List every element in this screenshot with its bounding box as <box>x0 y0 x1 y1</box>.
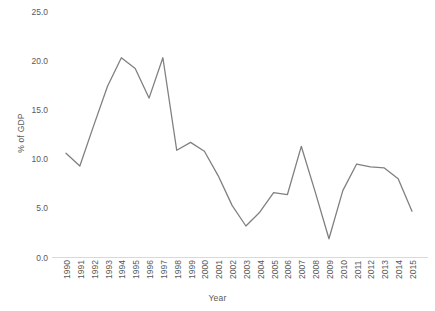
x-tick-label: 2004 <box>256 245 266 279</box>
x-tick-label: 1991 <box>76 245 86 279</box>
x-tick-label: 2010 <box>339 245 349 279</box>
x-tick-label: 2007 <box>297 245 307 279</box>
x-tick-label: 1993 <box>104 245 114 279</box>
x-tick-label: 1996 <box>145 245 155 279</box>
x-tick-label: 1992 <box>90 245 100 279</box>
data-series-line <box>66 58 412 239</box>
x-tick-label: 2008 <box>311 245 321 279</box>
x-tick-label: 1999 <box>187 245 197 279</box>
x-tick-label: 2005 <box>270 245 280 279</box>
line-chart: % of GDP 0.05.010.015.020.025.0 19901991… <box>0 0 435 311</box>
x-tick-label: 2002 <box>228 245 238 279</box>
x-axis-tick-labels: 1990199119921993199419951996199719981999… <box>0 258 435 298</box>
x-tick-label: 2012 <box>366 245 376 279</box>
x-tick-label: 1997 <box>159 245 169 279</box>
x-tick-label: 1990 <box>62 245 72 279</box>
x-axis-title: Year <box>0 293 435 303</box>
x-tick-label: 2001 <box>214 245 224 279</box>
x-tick-label: 1998 <box>173 245 183 279</box>
x-tick-label: 2011 <box>353 245 363 279</box>
x-tick-label: 2000 <box>200 245 210 279</box>
x-tick-label: 2014 <box>394 245 404 279</box>
x-tick-label: 1995 <box>131 245 141 279</box>
x-tick-label: 2006 <box>283 245 293 279</box>
x-tick-label: 2003 <box>242 245 252 279</box>
x-tick-label: 1994 <box>117 245 127 279</box>
x-tick-label: 2009 <box>325 245 335 279</box>
x-tick-label: 2015 <box>408 245 418 279</box>
x-tick-label: 2013 <box>380 245 390 279</box>
